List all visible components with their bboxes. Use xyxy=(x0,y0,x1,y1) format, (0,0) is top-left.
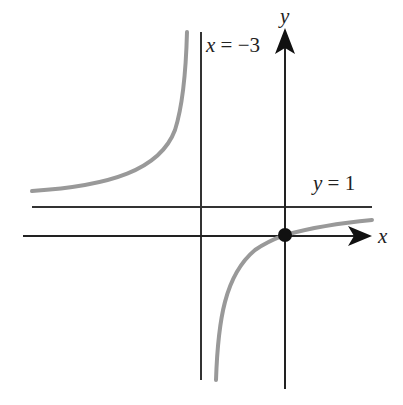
curve-left-branch xyxy=(32,32,187,191)
x-axis-label: x xyxy=(377,224,388,248)
y-axis-label: y xyxy=(278,4,290,28)
horizontal-asymptote-label: y = 1 xyxy=(311,171,355,195)
vertical-asymptote-label: x = −3 xyxy=(205,33,260,57)
hyperbola-graph: y x x = −3 y = 1 xyxy=(0,0,403,405)
curve-right-branch xyxy=(216,220,372,380)
origin-point xyxy=(278,228,292,242)
